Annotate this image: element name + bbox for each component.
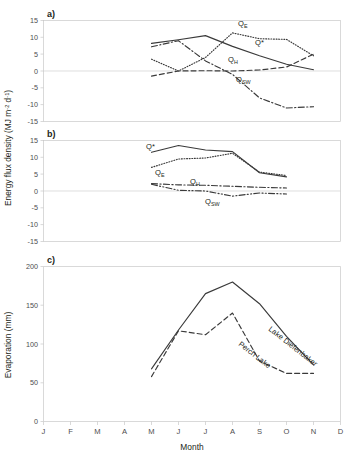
series-b-qe (152, 153, 287, 175)
label-qsw: QSW (236, 75, 252, 85)
label-lake-diefenbaker: Lake Diefenbaker (267, 324, 320, 368)
y-tick-label: -15 (28, 237, 38, 246)
label-qh: QH (190, 177, 200, 187)
panel-a-label: a) (47, 9, 55, 19)
y-tick-label: 200 (26, 262, 38, 271)
label-qsw: QSW (205, 197, 221, 207)
x-tick-label: J (204, 427, 208, 436)
y-tick-label: -10 (28, 220, 38, 229)
y-tick-label: 5 (34, 170, 38, 179)
multi-panel-line-chart: Energy flux density (MJ m-2 d-1) a) 15 1… (0, 0, 351, 473)
series-c-lake-diefenbaker (152, 282, 314, 369)
x-tick-label: M (148, 427, 154, 436)
y-tick-label: -5 (32, 203, 38, 212)
x-tick-label: F (68, 427, 73, 436)
series-b-qsw (152, 184, 287, 196)
y-tick-label: 0 (34, 417, 38, 426)
x-tick-label: M (94, 427, 100, 436)
label-qh: QH (228, 55, 238, 65)
x-tick-label: A (122, 427, 128, 436)
panel-c-label: c) (47, 255, 55, 265)
y-tick-label: -15 (28, 117, 38, 126)
label-qnet: Q* (146, 142, 155, 151)
y-tick-label: 100 (26, 340, 38, 349)
panel-c-inline-labels: Lake Diefenbaker Perch Lake (237, 324, 320, 370)
x-tick-label: N (311, 427, 316, 436)
label-qnet: Q* (255, 38, 264, 47)
y-tick-label: 15 (30, 16, 38, 25)
evaporation-axis-label: Evaporation (mm) (3, 312, 13, 379)
series-a-qsw (152, 41, 314, 108)
x-tick-label: S (257, 427, 262, 436)
x-tick-label: J (42, 427, 46, 436)
panel-b-inline-labels: Q* QE QH QSW (146, 142, 221, 207)
panel-c-y-ticks: 200 150 100 50 0 (26, 262, 44, 426)
y-tick-label: 15 (30, 136, 38, 145)
series-b-qh (152, 184, 287, 188)
y-tick-label: 0 (34, 67, 38, 76)
y-tick-label: 10 (30, 153, 38, 162)
x-tick-label: O (284, 427, 290, 436)
y-tick-label: 5 (34, 50, 38, 59)
y-tick-label: -5 (32, 83, 38, 92)
label-perch-lake: Perch Lake (237, 339, 273, 370)
panel-b: b) 15 10 5 0 -5 -10 -15 (28, 129, 341, 246)
y-tick-label: 50 (30, 378, 38, 387)
figure-root: Energy flux density (MJ m-2 d-1) a) 15 1… (0, 0, 351, 473)
y-tick-label: 10 (30, 33, 38, 42)
y-tick-label: 150 (26, 301, 38, 310)
panel-b-label: b) (47, 129, 56, 139)
x-axis-label: Month (180, 442, 204, 452)
panel-b-y-ticks: 15 10 5 0 -5 -10 -15 (28, 136, 44, 246)
svg-text:Energy flux density (MJ m-2 d-: Energy flux density (MJ m-2 d-1) (3, 90, 13, 206)
panel-a-y-ticks: 15 10 5 0 -5 -10 -15 (28, 16, 44, 126)
y-tick-label: 0 (34, 187, 38, 196)
x-tick-label: D (338, 427, 344, 436)
panel-a: a) 15 10 5 0 -5 -10 -15 (28, 9, 341, 126)
y-tick-label: -10 (28, 100, 38, 109)
x-tick-label: J (177, 427, 181, 436)
label-qe: QE (155, 168, 165, 178)
panel-c: c) Evaporation (mm) 200 150 100 50 0 (3, 255, 344, 452)
x-tick-label: A (230, 427, 236, 436)
energy-flux-axis-label: Energy flux density (MJ m-2 d-1) (3, 90, 13, 206)
x-axis-month-ticks: J F M A M J J A S O N (42, 422, 344, 437)
